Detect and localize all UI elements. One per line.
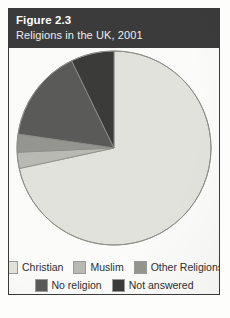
legend-label: No religion <box>52 279 102 291</box>
legend-row: ChristianMuslimOther Religions <box>9 258 219 276</box>
legend-item-muslim[interactable]: Muslim <box>73 261 123 274</box>
legend-label: Christian <box>22 261 63 273</box>
legend-swatch-icon <box>73 261 86 274</box>
legend-label: Not answered <box>129 279 194 291</box>
chart-area <box>9 48 219 256</box>
legend-row: No religionNot answered <box>9 276 219 294</box>
pie-chart-svg <box>16 48 212 248</box>
figure-box: Figure 2.3 Religions in the UK, 2001 Chr… <box>8 8 220 295</box>
figure-title: Religions in the UK, 2001 <box>16 28 219 42</box>
legend-item-not-answered[interactable]: Not answered <box>112 279 194 292</box>
legend-swatch-icon <box>8 261 18 274</box>
legend-label: Muslim <box>90 261 123 273</box>
legend-item-christian[interactable]: Christian <box>8 261 63 274</box>
legend-swatch-icon <box>35 279 48 292</box>
pie-chart <box>16 48 212 248</box>
figure-page: Figure 2.3 Religions in the UK, 2001 Chr… <box>0 0 230 318</box>
legend-swatch-icon <box>134 261 147 274</box>
figure-number: Figure 2.3 <box>16 13 219 27</box>
legend-label: Other Religions <box>151 261 220 273</box>
legend: ChristianMuslimOther Religions No religi… <box>9 256 219 295</box>
legend-item-no-religion[interactable]: No religion <box>35 279 102 292</box>
legend-item-other-religions[interactable]: Other Religions <box>134 261 220 274</box>
legend-swatch-icon <box>112 279 125 292</box>
caption-bar: Figure 2.3 Religions in the UK, 2001 <box>9 9 219 48</box>
